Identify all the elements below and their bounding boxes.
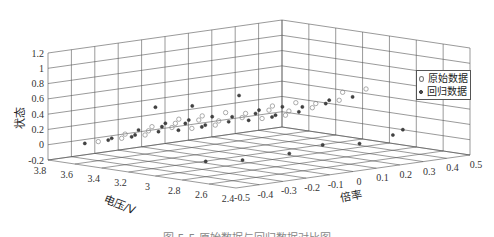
regression-data-points xyxy=(83,94,404,163)
original-point xyxy=(177,117,181,121)
original-point xyxy=(173,121,177,125)
legend-item-original: 原始数据 xyxy=(419,72,468,85)
original-point xyxy=(260,116,264,120)
regression-point xyxy=(391,133,394,136)
regression-point xyxy=(83,142,86,145)
legend-label: 原始数据 xyxy=(428,72,468,85)
regression-point xyxy=(154,106,157,109)
regression-point xyxy=(137,128,140,131)
regression-point xyxy=(247,119,250,122)
x-tick-label: -0.1 xyxy=(328,179,344,190)
x-tick-label: 0.1 xyxy=(376,172,389,183)
original-point xyxy=(364,87,368,91)
z-tick-label: -0.2 xyxy=(28,155,44,166)
z-tick-label: 1 xyxy=(39,63,44,74)
original-point xyxy=(314,101,318,105)
x-tick-label: 0.5 xyxy=(470,159,483,170)
regression-point xyxy=(324,102,327,105)
y-tick-label: 2.6 xyxy=(195,189,208,200)
regression-point xyxy=(204,123,207,126)
regression-point xyxy=(237,94,240,97)
regression-point xyxy=(254,112,257,115)
z-tick-label: 0.4 xyxy=(32,109,45,120)
legend: 原始数据 回归数据 xyxy=(416,70,471,100)
original-point xyxy=(150,124,154,128)
grid-lines xyxy=(48,20,470,188)
original-point xyxy=(119,136,123,140)
x-tick-label: -0.2 xyxy=(304,182,320,193)
legend-item-regression: 回归数据 xyxy=(419,85,468,98)
original-point xyxy=(190,126,194,130)
original-point xyxy=(96,139,100,143)
z-tick-label: 1.2 xyxy=(32,48,45,59)
regression-point xyxy=(274,114,277,117)
y-axis-label: 电压/V xyxy=(101,193,137,218)
legend-label: 回归数据 xyxy=(427,85,467,98)
original-point xyxy=(143,133,147,137)
original-point xyxy=(337,98,341,102)
z-axis-ticks: 1.210.80.60.40.20-0.2 xyxy=(28,48,44,166)
original-point xyxy=(310,106,314,110)
regression-point xyxy=(281,105,284,108)
y-tick-label: 3 xyxy=(145,181,150,192)
regression-point xyxy=(164,122,167,125)
filled-dot-marker-icon xyxy=(419,90,423,94)
original-point xyxy=(270,104,274,108)
regression-point xyxy=(297,110,300,113)
original-point xyxy=(243,111,247,115)
regression-point xyxy=(351,95,354,98)
open-circle-marker-icon xyxy=(419,76,424,82)
x-tick-label: -0.3 xyxy=(281,185,297,196)
regression-point xyxy=(321,143,324,146)
regression-point xyxy=(191,104,194,107)
original-point xyxy=(283,113,287,117)
original-point xyxy=(213,123,217,127)
x-tick-label: 0 xyxy=(357,176,362,187)
y-tick-label: 3.6 xyxy=(61,169,74,180)
z-tick-label: 0.2 xyxy=(32,124,45,135)
regression-point xyxy=(241,159,244,162)
regression-point xyxy=(204,160,207,163)
original-point xyxy=(340,90,344,94)
z-tick-label: 0.8 xyxy=(32,78,45,89)
x-tick-label: 0.3 xyxy=(423,166,436,177)
y-tick-label: 3.8 xyxy=(34,165,47,176)
regression-point xyxy=(157,130,160,133)
original-point xyxy=(294,101,298,105)
x-tick-label: 0.2 xyxy=(400,169,413,180)
regression-point xyxy=(401,128,404,131)
regression-point xyxy=(133,133,136,136)
regression-point xyxy=(184,122,187,125)
regression-point xyxy=(107,139,110,142)
regression-point xyxy=(358,142,361,145)
regression-point xyxy=(187,118,190,121)
regression-point xyxy=(177,129,180,132)
scatter3d-plot: 1.210.80.60.40.20-0.2 3.83.63.43.232.82.… xyxy=(0,0,494,237)
z-tick-label: 0.6 xyxy=(32,93,45,104)
y-tick-label: 3.4 xyxy=(87,173,100,184)
regression-point xyxy=(288,152,291,155)
original-point xyxy=(267,108,271,112)
regression-point xyxy=(227,120,230,123)
original-point xyxy=(223,110,227,114)
x-tick-label: -0.4 xyxy=(257,189,273,200)
original-point xyxy=(197,118,201,122)
regression-point xyxy=(270,115,273,118)
regression-point xyxy=(200,125,203,128)
regression-point xyxy=(328,99,331,102)
z-axis-label: 状态 xyxy=(13,107,27,129)
original-point xyxy=(200,114,204,118)
y-tick-label: 2.8 xyxy=(168,185,181,196)
y-tick-label: 2.4 xyxy=(222,193,235,204)
z-tick-label: 0 xyxy=(39,139,44,150)
figure-caption: 图 5-5 原始数据与回归数据对比图 xyxy=(0,229,494,237)
regression-point xyxy=(110,137,113,140)
x-tick-label: 0.4 xyxy=(446,162,459,173)
regression-point xyxy=(257,109,260,112)
regression-point xyxy=(130,135,133,138)
y-tick-label: 3.2 xyxy=(114,177,127,188)
regression-point xyxy=(231,115,234,118)
y-axis-ticks: 3.83.63.43.232.82.62.4 xyxy=(34,165,235,204)
regression-point xyxy=(301,105,304,108)
regression-point xyxy=(211,115,214,118)
